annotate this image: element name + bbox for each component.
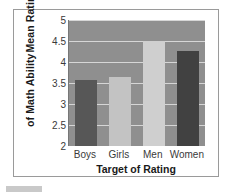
bar-slot — [137, 20, 171, 146]
x-axis-title: Target of Rating — [68, 163, 204, 175]
y-tick-label: 3.5 — [52, 78, 66, 89]
x-tick-label-boys: Boys — [68, 148, 102, 162]
bar-series — [69, 20, 205, 146]
figure-container: Mean Rating of Math Ability 22.533.544.5… — [0, 0, 234, 195]
bar-slot — [171, 20, 205, 146]
page-artifact-strip — [6, 186, 42, 192]
y-axis-tick-labels: 22.533.544.55 — [46, 20, 66, 146]
x-axis-tick-labels: BoysGirlsMenWomen — [68, 148, 204, 162]
bar-girls[interactable] — [109, 77, 130, 146]
x-tick-label-men: Men — [136, 148, 170, 162]
x-tick-label-girls: Girls — [102, 148, 136, 162]
y-tick-label: 2 — [60, 141, 66, 152]
y-tick-label: 2.5 — [52, 120, 66, 131]
x-tick-label-women: Women — [170, 148, 204, 162]
bar-women[interactable] — [177, 51, 198, 146]
y-tick-label: 3 — [60, 99, 66, 110]
y-axis-title-line2: of Math Ability — [25, 54, 36, 127]
bar-slot — [103, 20, 137, 146]
y-tick-label: 4.5 — [52, 36, 66, 47]
bar-boys[interactable] — [75, 80, 96, 146]
plot-area — [68, 20, 205, 146]
y-axis-title: Mean Rating of Math Ability — [19, 0, 41, 118]
bar-slot — [69, 20, 103, 146]
y-tick-label: 5 — [60, 15, 66, 26]
bar-men[interactable] — [143, 41, 164, 146]
y-axis-title-line1: Mean Rating — [25, 0, 36, 53]
y-tick-label: 4 — [60, 57, 66, 68]
